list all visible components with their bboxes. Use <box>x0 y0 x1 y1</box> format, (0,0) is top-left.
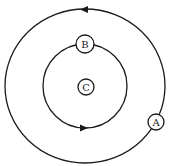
body-c-label: C <box>82 82 90 93</box>
arrow-left-icon <box>80 6 88 13</box>
body-b-label: B <box>81 39 88 50</box>
body-b: B <box>76 35 94 53</box>
orbit-diagram: A B C <box>0 0 170 166</box>
arrow-right-icon <box>80 125 88 132</box>
body-c: C <box>78 79 94 95</box>
body-a: A <box>148 114 164 130</box>
body-a-label: A <box>151 117 160 128</box>
